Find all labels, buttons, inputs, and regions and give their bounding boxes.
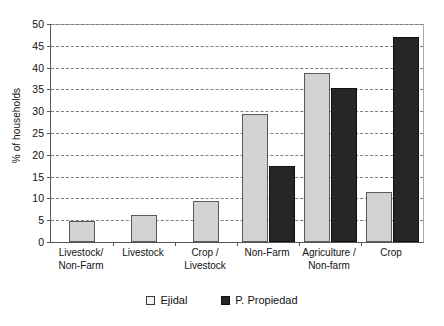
grid-line: [51, 111, 423, 112]
y-axis-tick-label: 40: [32, 62, 44, 73]
y-axis-tick-mark: [47, 111, 51, 112]
y-axis-tick-mark: [47, 68, 51, 69]
y-axis-tick-mark: [47, 220, 51, 221]
x-axis-category-label-line: Livestock: [184, 260, 226, 273]
grid-line: [51, 155, 423, 156]
legend-label: P. Propiedad: [235, 294, 297, 306]
y-axis-tick-label: 25: [32, 128, 44, 139]
x-axis-category-label: Livestock/Non-Farm: [58, 247, 103, 272]
grid-line: [51, 89, 423, 90]
x-axis-category-label-line: Livestock/: [58, 247, 103, 260]
y-axis-tick-mark: [47, 198, 51, 199]
x-axis-category-label: Crop /Livestock: [184, 247, 226, 272]
y-axis-tick-label: 10: [32, 193, 44, 204]
y-axis-tick-mark: [47, 24, 51, 25]
y-axis-tick-label: 30: [32, 106, 44, 117]
y-axis-tick-mark: [47, 89, 51, 90]
x-axis-category-label-line: Non-farm: [302, 260, 355, 273]
y-axis-tick-mark: [47, 133, 51, 134]
bar-ejidal: [242, 114, 268, 242]
x-axis-tick-mark: [237, 242, 238, 246]
bar-ejidal: [304, 73, 330, 242]
y-axis-tick-label: 50: [32, 19, 44, 30]
bar-ejidal: [131, 215, 157, 242]
bar-p-propiedad: [393, 37, 419, 242]
x-axis-tick-mark: [113, 242, 114, 246]
x-axis-tick-mark: [299, 242, 300, 246]
legend-item: P. Propiedad: [221, 294, 297, 306]
x-axis-tick-mark: [361, 242, 362, 246]
grid-line: [51, 46, 423, 47]
grid-line: [51, 177, 423, 178]
y-axis-tick-mark: [47, 46, 51, 47]
x-axis-category-label-line: Crop: [380, 247, 402, 260]
y-axis-tick-label: 0: [38, 237, 44, 248]
y-axis-tick-labels: 05101520253035404550: [22, 18, 44, 248]
bar-ejidal: [69, 221, 95, 242]
y-axis-tick-mark: [47, 155, 51, 156]
x-axis-tick-mark: [175, 242, 176, 246]
grid-line: [51, 68, 423, 69]
legend-swatch-icon: [221, 296, 230, 305]
grid-line: [51, 133, 423, 134]
x-axis-category-label-line: Livestock: [122, 247, 164, 260]
y-axis-tick-label: 35: [32, 84, 44, 95]
bar-ejidal: [366, 192, 392, 242]
x-axis-category-label: Livestock: [122, 247, 164, 260]
x-axis-category-label-line: Non-Farm: [58, 260, 103, 273]
x-axis-category-labels: Livestock/Non-FarmLivestockCrop /Livesto…: [50, 247, 422, 289]
bar-p-propiedad: [269, 166, 295, 242]
x-axis-category-label-line: Agriculture /: [302, 247, 355, 260]
x-axis-category-label: Crop: [380, 247, 402, 260]
y-axis-title-text: % of households: [12, 87, 23, 162]
y-axis-tick-mark: [47, 177, 51, 178]
y-axis-tick-mark: [47, 242, 51, 243]
x-axis-category-label-line: Crop /: [184, 247, 226, 260]
plot-area: [50, 24, 424, 243]
legend-item: Ejidal: [146, 294, 187, 306]
legend-swatch-icon: [146, 296, 155, 305]
bar-ejidal: [193, 201, 219, 242]
grid-line: [51, 24, 423, 25]
bar-chart-figure: % of households 05101520253035404550 Liv…: [0, 0, 444, 326]
legend-label: Ejidal: [160, 294, 187, 306]
y-axis-tick-label: 15: [32, 171, 44, 182]
x-axis-category-label: Non-Farm: [244, 247, 289, 260]
x-axis-category-label-line: Non-Farm: [244, 247, 289, 260]
y-axis-tick-label: 5: [38, 215, 44, 226]
y-axis-tick-label: 45: [32, 41, 44, 52]
bar-p-propiedad: [331, 88, 357, 242]
chart-legend: EjidalP. Propiedad: [0, 294, 444, 306]
y-axis-tick-label: 20: [32, 150, 44, 161]
x-axis-category-label: Agriculture /Non-farm: [302, 247, 355, 272]
